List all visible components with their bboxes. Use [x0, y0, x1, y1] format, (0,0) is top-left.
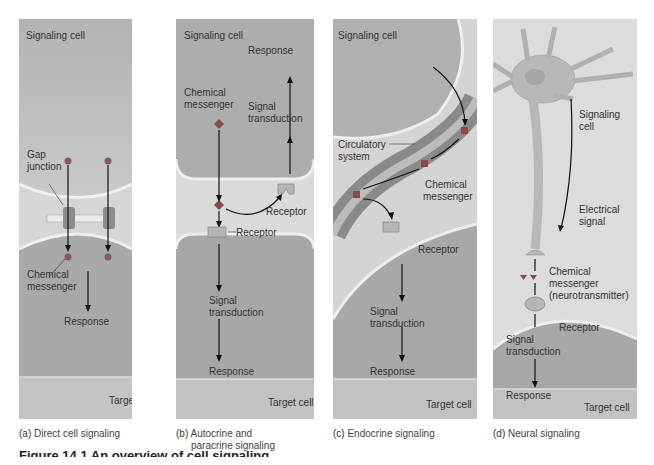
signaling-cell-label-2: cell [579, 121, 594, 132]
response-label: Response [64, 316, 109, 327]
signal-transduction-label: Signal [370, 306, 398, 317]
chemical-messenger-label: Chemical [27, 269, 69, 280]
caption-b-letter: (b) [176, 428, 188, 439]
panel-neural: Signaling cell Electrical signal Chemica… [493, 19, 637, 419]
chemical-messenger-label-2: messenger [27, 281, 76, 292]
panel-direct-signaling: Signaling cell Gap junction Chemical mes… [19, 19, 132, 419]
endocrine-illustration [333, 19, 477, 419]
receptor-label: Receptor [418, 244, 459, 255]
figure-title: Figure 14.1 An overview of cell signalin… [19, 448, 269, 463]
signal-transduction-label: Signal [506, 334, 534, 345]
signaling-cell-label: Signaling [579, 109, 620, 120]
caption-d-text: Neural signaling [508, 428, 580, 439]
response-label: Response [370, 366, 415, 377]
caption-a-letter: (a) [19, 428, 31, 439]
caption-a: (a) Direct cell signaling [19, 428, 120, 440]
receptor-icon [383, 222, 399, 232]
response-label: Response [506, 390, 551, 401]
signal-transduction-bottom-label: Signal [209, 295, 237, 306]
caption-d-letter: (d) [493, 428, 505, 439]
chemical-messenger-label: Chemical [184, 87, 226, 98]
receptor-icon [525, 297, 545, 311]
chemical-messenger-label: Chemical [425, 179, 467, 190]
direct-signaling-illustration [19, 19, 132, 419]
target-cell-label: Target cell [268, 397, 314, 408]
caption-c-letter: (c) [333, 428, 345, 439]
circulatory-system-label: Circulatory [338, 139, 386, 150]
target-cell-label: Target cell [584, 402, 630, 413]
signal-transduction-label: Signal [248, 101, 276, 112]
caption-c-text: Endocrine signaling [347, 428, 434, 439]
response-bottom-label: Response [209, 366, 254, 377]
caption-c: (c) Endocrine signaling [333, 428, 435, 440]
response-top-label: Response [248, 45, 293, 56]
gap-junction-label-2: junction [27, 161, 61, 172]
autocrine-illustration [176, 19, 314, 419]
neural-illustration [493, 19, 637, 419]
receptor-left-label: Receptor [236, 227, 277, 238]
gap-junction-label: Gap [27, 149, 46, 160]
target-cell-label: Target cell [426, 399, 472, 410]
signal-transduction-label-2: transduction [506, 346, 560, 357]
panel-autocrine-paracrine: Signaling cell Response Chemical messeng… [176, 19, 314, 419]
signal-transduction-bottom-label-2: transduction [209, 307, 263, 318]
messenger-icon [461, 127, 468, 134]
signal-transduction-label-2: transduction [370, 318, 424, 329]
signaling-cell-label: Signaling cell [184, 30, 243, 41]
caption-d: (d) Neural signaling [493, 428, 580, 440]
chemical-messenger-label-2: messenger [184, 99, 233, 110]
chemical-messenger-label-2: messenger [549, 278, 598, 289]
electrical-signal-label: Electrical [579, 204, 620, 215]
circulatory-system-label-2: system [338, 151, 370, 162]
panel-endocrine: Signaling cell Circulatory system Chemic… [333, 19, 477, 419]
chemical-messenger-label: Chemical [549, 266, 591, 277]
signaling-cell-label: Signaling cell [26, 30, 85, 41]
caption-a-text: Direct cell signaling [34, 428, 120, 439]
chemical-messenger-label-3: (neurotransmitter) [549, 290, 628, 301]
chemical-messenger-label-2: messenger [423, 191, 472, 202]
target-cell-label: Target cell [109, 395, 132, 406]
signal-transduction-label-2: transduction [248, 113, 302, 124]
signaling-cell-label: Signaling cell [338, 30, 397, 41]
receptor-right-label: Receptor [266, 206, 307, 217]
electrical-signal-label-2: signal [579, 216, 605, 227]
caption-b-text: Autocrine and [190, 428, 252, 439]
receptor-label: Receptor [559, 322, 600, 333]
